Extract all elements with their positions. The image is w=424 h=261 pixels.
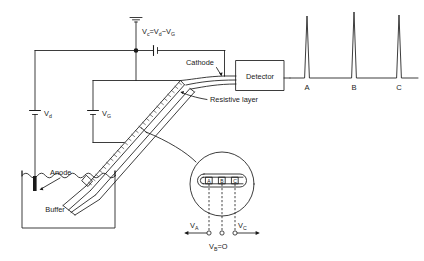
inset-leader-line <box>146 132 196 162</box>
inset-bands: A B C <box>206 177 238 184</box>
figure-root: Vc=Vd−VG Vd VG <box>0 0 424 261</box>
peak-label-c: C <box>396 83 402 92</box>
inset-band-label-b: B <box>220 178 224 184</box>
capillary-assembly <box>63 81 195 216</box>
inset-detail: A B C <box>190 152 254 231</box>
vc-label-eq: =V <box>150 27 159 36</box>
detector-box: Detector <box>236 61 290 91</box>
electropherogram <box>290 12 418 78</box>
va-label-sub: A <box>195 225 199 231</box>
vb-label-group: VB=O <box>209 242 228 252</box>
vg-label-sub-eq: G <box>171 31 175 37</box>
vc-axis-label-sub: C <box>243 225 247 231</box>
vc-label-minus: −V <box>162 27 171 36</box>
vg-branch: VG <box>88 81 125 143</box>
inset-band-label-a: A <box>207 178 211 184</box>
svg-text:VG: VG <box>102 109 111 119</box>
vb-value: =O <box>217 242 227 251</box>
capillary-electrophoresis-diagram: Vc=Vd−VG Vd VG <box>0 0 424 261</box>
svg-text:Vd: Vd <box>44 109 52 119</box>
vg-label-sub: G <box>107 113 111 119</box>
buffer-reservoir <box>22 171 116 228</box>
anode-callout <box>40 178 60 190</box>
voltage-axis <box>184 231 260 235</box>
vc-equation-label: Vc=Vd−VG <box>142 27 175 37</box>
peak-label-b: B <box>351 83 356 92</box>
inset-projection-lines <box>209 184 235 231</box>
vd-branch: Vd <box>30 51 52 186</box>
vd-label-sub: d <box>49 113 52 119</box>
cathode-wiring <box>181 68 236 90</box>
detector-label: Detector <box>246 72 274 81</box>
ground-symbol <box>130 18 142 50</box>
inset-band-label-c: C <box>233 178 237 184</box>
vc-axis-label-group: VC <box>238 221 247 231</box>
resistive-layer-label: Resistive layer <box>210 95 259 104</box>
cathode-label: Cathode <box>186 58 214 67</box>
anode-label: Anode <box>50 168 71 177</box>
svg-text:Vc=Vd−VG: Vc=Vd−VG <box>142 27 175 37</box>
peak-trace <box>290 12 418 78</box>
va-label-group: VA <box>190 221 199 231</box>
peak-label-a: A <box>304 83 310 92</box>
resistive-layer-hatching <box>89 82 182 184</box>
buffer-label: Buffer <box>45 205 65 214</box>
